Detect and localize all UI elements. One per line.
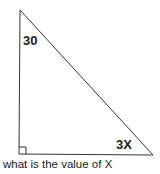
top-angle-label: 30	[23, 33, 37, 48]
triangle-diagram: 30 3X	[0, 0, 160, 174]
bottom-right-angle-label: 3X	[116, 137, 132, 152]
question-caption: what is the value of X	[3, 158, 112, 170]
triangle-shape	[19, 10, 153, 155]
right-angle-marker	[19, 147, 26, 154]
